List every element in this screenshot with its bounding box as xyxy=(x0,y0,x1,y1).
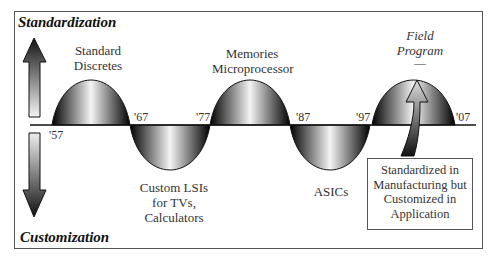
label-asics: ASICs xyxy=(306,184,356,199)
callout-box: Standardized in Manufacturing but Custom… xyxy=(367,158,473,230)
year-97: '97 xyxy=(356,110,370,125)
customization-label: Customization xyxy=(20,229,109,246)
year-77: '77 xyxy=(196,110,210,125)
standardization-arrow-icon xyxy=(23,38,46,117)
label-field-program: Field Program — xyxy=(395,28,445,68)
year-67: '67 xyxy=(134,110,148,125)
year-87: '87 xyxy=(296,110,310,125)
label-custom-lsis: Custom LSIs for TVs, Calculators xyxy=(139,180,209,225)
label-standard-discretes: Standard Discretes xyxy=(68,43,128,73)
lobe-standard-discretes xyxy=(52,80,130,125)
lobe-asics xyxy=(290,125,370,170)
standardization-label: Standardization xyxy=(18,14,116,31)
label-memories-microprocessor: Memories Microprocessor xyxy=(212,46,292,76)
year-07: '07 xyxy=(456,110,470,125)
customization-arrow-icon xyxy=(23,133,46,217)
lobe-custom-lsi xyxy=(130,125,210,170)
lobe-memories xyxy=(210,80,290,125)
year-57: '57 xyxy=(49,128,63,143)
